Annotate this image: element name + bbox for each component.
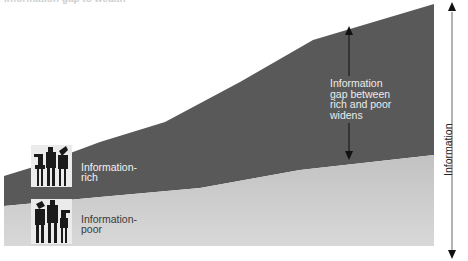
information-poor-people-icon — [31, 199, 72, 244]
information-rich-label-line2: rich — [81, 172, 137, 182]
gap-annotation-line4: widens — [330, 110, 400, 121]
information-poor-label-line2: poor — [81, 224, 137, 234]
gap-annotation-line3: rich and poor — [330, 99, 400, 110]
gap-annotation-line1: Information — [330, 78, 400, 89]
information-rich-people-icon — [31, 145, 72, 187]
information-rich-label: Information- rich — [81, 162, 137, 182]
information-axis-label: Information — [442, 123, 454, 176]
information-gap-diagram — [0, 0, 468, 261]
gap-annotation: Information gap between rich and poor wi… — [330, 78, 400, 120]
information-poor-label: Information- poor — [81, 214, 137, 234]
